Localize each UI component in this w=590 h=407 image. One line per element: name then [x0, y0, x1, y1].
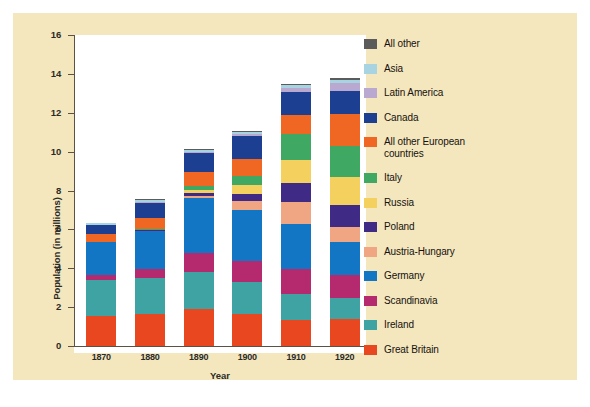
legend-item[interactable]: Austria-Hungary: [364, 246, 455, 258]
legend-swatch-icon: [364, 137, 377, 147]
legend-swatch-icon: [364, 198, 377, 208]
bar-segment: [281, 115, 311, 134]
bar-segment: [281, 269, 311, 293]
legend-item[interactable]: Russia: [364, 197, 414, 209]
bar-segment: [135, 314, 165, 346]
bar-segment: [281, 183, 311, 201]
bar-segment: [330, 91, 360, 113]
legend-label: Germany: [384, 270, 424, 282]
bar-segment: [135, 203, 165, 218]
bar-segment: [330, 83, 360, 92]
bar-segment: [330, 298, 360, 318]
legend-label: Latin America: [384, 87, 443, 99]
legend-item[interactable]: Great Britain: [364, 344, 439, 356]
bar-segment: [232, 314, 262, 346]
legend-label: Asia: [384, 63, 403, 75]
legend-swatch-icon: [364, 247, 377, 257]
bar-segment: [281, 294, 311, 320]
bar-segment: [86, 225, 116, 235]
legend-label: Ireland: [384, 319, 414, 331]
bar-segment: [330, 177, 360, 204]
bar-segment: [232, 194, 262, 202]
bar-stack: [330, 78, 360, 346]
x-axis-line: [74, 346, 366, 347]
bar-segment: [232, 136, 262, 159]
legend-swatch-icon: [364, 320, 377, 330]
bar-segment: [184, 172, 214, 186]
x-tick-label: 1920: [322, 352, 368, 362]
bar-segment: [232, 159, 262, 176]
legend-label: Russia: [384, 197, 414, 209]
y-tick-mark: [68, 346, 74, 347]
bar-segment: [184, 198, 214, 252]
bar-segment: [184, 253, 214, 272]
bar-segment: [330, 205, 360, 227]
bar-segment: [281, 160, 311, 183]
y-axis-label-holder: Population (in millions): [39, 93, 53, 253]
legend-swatch-icon: [364, 39, 377, 49]
legend-item[interactable]: Scandinavia: [364, 295, 437, 307]
y-axis-label: Population (in millions): [51, 174, 62, 324]
legend-item[interactable]: Latin America: [364, 87, 443, 99]
legend-label: Scandinavia: [384, 295, 437, 307]
legend-item[interactable]: All other: [364, 38, 420, 50]
bar-segment: [330, 319, 360, 346]
bar-segment: [135, 218, 165, 230]
x-tick-label: 1900: [224, 352, 270, 362]
bar-segment: [184, 272, 214, 309]
y-tick-label: 14: [27, 68, 61, 79]
bar-segment: [135, 278, 165, 314]
y-tick-label: 16: [27, 29, 61, 40]
legend-swatch-icon: [364, 222, 377, 232]
legend-item[interactable]: Germany: [364, 270, 424, 282]
legend-item[interactable]: Italy: [364, 172, 402, 184]
legend-item[interactable]: Canada: [364, 112, 418, 124]
x-tick-label: 1910: [273, 352, 319, 362]
legend-swatch-icon: [364, 173, 377, 183]
bar-segment: [86, 280, 116, 316]
bar-segment: [330, 227, 360, 243]
bar-segment: [86, 316, 116, 346]
bar-stack: [184, 149, 214, 346]
legend-label: Italy: [384, 172, 402, 184]
legend-item[interactable]: Poland: [364, 221, 415, 233]
legend-swatch-icon: [364, 345, 377, 355]
bar-segment: [330, 242, 360, 275]
bar-segment: [330, 114, 360, 146]
legend-swatch-icon: [364, 113, 377, 123]
bar-segment: [232, 185, 262, 193]
legend-item[interactable]: All other European countries: [364, 136, 465, 159]
bar-segment: [232, 176, 262, 186]
bar-stack: [281, 84, 311, 346]
bar-segment: [184, 153, 214, 171]
bar-segment: [184, 309, 214, 346]
y-tick-label: 0: [27, 340, 61, 351]
legend-swatch-icon: [364, 64, 377, 74]
x-tick-label: 1890: [176, 352, 222, 362]
bar-segment: [232, 282, 262, 314]
bars-container: [74, 35, 366, 346]
x-tick-label: 1870: [78, 352, 124, 362]
bar-segment: [86, 234, 116, 242]
bar-segment: [232, 210, 262, 262]
bar-segment: [135, 231, 165, 269]
legend-item[interactable]: Ireland: [364, 319, 414, 331]
bar-segment: [330, 146, 360, 177]
x-tick-label: 1880: [127, 352, 173, 362]
bar-segment: [281, 224, 311, 269]
chart-legend: All otherAsiaLatin AmericaCanadaAll othe…: [364, 35, 569, 355]
bar-stack: [232, 131, 262, 346]
legend-label: Austria-Hungary: [384, 246, 455, 258]
legend-label: Canada: [384, 112, 418, 124]
bar-segment: [281, 320, 311, 346]
bar-segment: [86, 242, 116, 275]
bar-stack: [135, 199, 165, 346]
legend-item[interactable]: Asia: [364, 63, 403, 75]
bar-segment: [135, 269, 165, 278]
chart-figure: 0246810121416 Population (in millions) 1…: [13, 13, 577, 380]
legend-label: Poland: [384, 221, 415, 233]
legend-swatch-icon: [364, 296, 377, 306]
legend-swatch-icon: [364, 271, 377, 281]
bar-segment: [281, 202, 311, 225]
bar-segment: [330, 275, 360, 298]
